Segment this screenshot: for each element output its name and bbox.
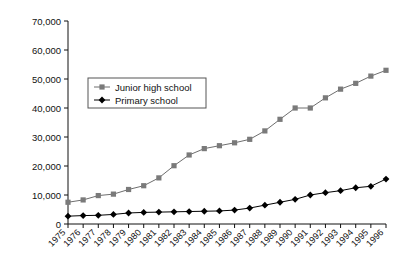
y-axis-tick-label: 40,000 [32, 103, 61, 114]
data-point [292, 196, 299, 203]
y-axis-tick-label: 10,000 [32, 190, 61, 201]
data-point [247, 137, 252, 142]
data-point [277, 199, 284, 206]
data-point [383, 68, 388, 73]
data-point [262, 128, 267, 133]
data-point [111, 192, 116, 197]
data-point [125, 210, 132, 217]
chart-container: 010,00020,00030,00040,00050,00060,00070,… [0, 0, 396, 279]
data-point [96, 193, 101, 198]
data-point [187, 152, 192, 157]
data-point [277, 117, 282, 122]
legend-label-1: Primary school [115, 95, 178, 106]
data-point [232, 140, 237, 145]
data-point [353, 81, 358, 86]
legend-marker-0 [99, 84, 104, 89]
data-point [171, 163, 176, 168]
y-axis-tick-label: 70,000 [32, 16, 61, 27]
data-point [201, 208, 208, 215]
data-point [171, 208, 178, 215]
y-axis-tick-label: 60,000 [32, 45, 61, 56]
data-point [81, 197, 86, 202]
data-point [156, 175, 161, 180]
data-point [293, 105, 298, 110]
data-point [110, 211, 117, 218]
data-point [367, 183, 374, 190]
data-point [155, 209, 162, 216]
data-point [216, 208, 223, 215]
data-point [323, 95, 328, 100]
data-point [217, 143, 222, 148]
data-point [308, 105, 313, 110]
data-point [140, 209, 147, 216]
y-axis-tick-label: 30,000 [32, 132, 61, 143]
data-point [368, 74, 373, 79]
data-point [65, 200, 70, 205]
data-point [246, 205, 253, 212]
data-point [322, 189, 329, 196]
x-axis-tick-label: 1996 [364, 227, 385, 248]
line-chart: 010,00020,00030,00040,00050,00060,00070,… [0, 0, 396, 279]
data-point [95, 212, 102, 219]
y-axis-tick-label: 50,000 [32, 74, 61, 85]
data-point [307, 192, 314, 199]
data-point [126, 187, 131, 192]
legend-label-0: Junior high school [115, 82, 192, 93]
data-point [231, 207, 238, 214]
data-point [337, 187, 344, 194]
data-point [141, 183, 146, 188]
data-point [261, 202, 268, 209]
data-point [186, 208, 193, 215]
data-point [338, 87, 343, 92]
data-point [202, 146, 207, 151]
series-line-1 [68, 179, 386, 216]
data-point [65, 213, 72, 220]
data-point [352, 184, 359, 191]
data-point [383, 176, 390, 183]
data-point [80, 212, 87, 219]
y-axis-tick-label: 20,000 [32, 161, 61, 172]
